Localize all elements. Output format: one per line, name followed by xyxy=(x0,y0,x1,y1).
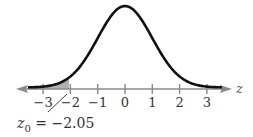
z0-annotation: z0 = −2.05 xyxy=(16,115,94,134)
tick-label: 3 xyxy=(203,95,211,110)
tick-label: 2 xyxy=(175,95,183,110)
tick-label: −3 xyxy=(34,95,53,110)
tick-label: 0 xyxy=(121,95,129,110)
tick-label: −1 xyxy=(88,95,107,110)
normal-curve xyxy=(28,6,222,87)
tick-label: 1 xyxy=(148,95,156,110)
z-axis-label: z xyxy=(235,81,243,96)
normal-curve-diagram: −3−2−10123 z z0 = −2.05 xyxy=(0,0,253,137)
